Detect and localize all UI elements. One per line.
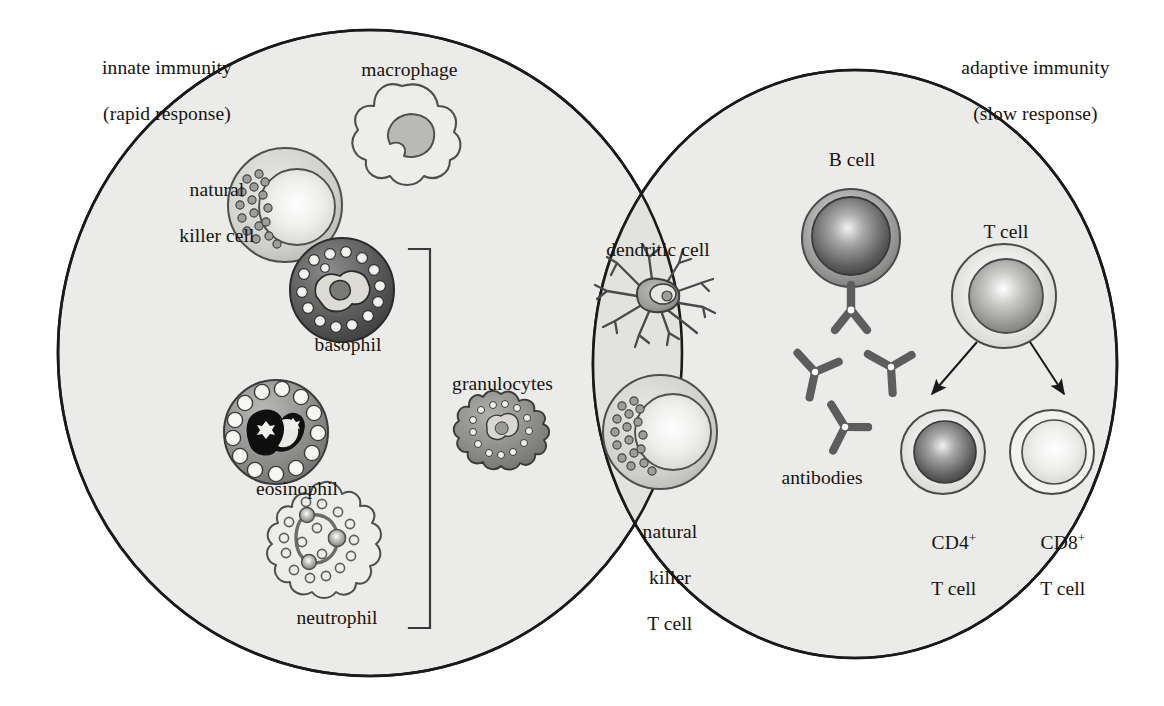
adaptive-immunity-label: adaptive immunity (slow response) [918, 33, 1133, 148]
antibodies-label: antibodies [757, 466, 887, 489]
cd8-superscript: + [1078, 530, 1086, 545]
nk-cell-line2: killer cell [179, 225, 254, 246]
eosinophil-label: eosinophil [232, 477, 362, 500]
t-cell-label: T cell [962, 220, 1050, 243]
macrophage-label: macrophage [337, 58, 482, 81]
innate-immunity-line2: (rapid response) [103, 103, 231, 124]
adaptive-immunity-line1: adaptive immunity [961, 57, 1109, 78]
dendritic-cell-label: dendritic cell [583, 238, 733, 261]
granulocytes-label: granulocytes [435, 372, 570, 395]
basophil-label: basophil [288, 333, 408, 356]
innate-immunity-line1: innate immunity [102, 57, 232, 78]
t-cell-icon [952, 244, 1056, 348]
figure-canvas: innate immunity (rapid response) adaptiv… [0, 0, 1164, 706]
cd8-main: CD8 [1041, 532, 1078, 553]
cd8-line2: T cell [1040, 578, 1085, 599]
cd4-t-cell-label: CD4+ T cell [889, 508, 999, 623]
cd4-line2: T cell [931, 578, 976, 599]
nk-cell-line1: natural [190, 179, 245, 200]
natural-killer-t-cell-icon [603, 375, 717, 489]
natural-killer-t-cell-label: natural killer T cell [605, 497, 715, 658]
cd4-main: CD4 [932, 532, 969, 553]
cd4-t-cell-icon [901, 410, 985, 494]
nkt-line3: T cell [647, 613, 692, 634]
cd8-t-cell-icon [1010, 410, 1094, 494]
cd4-superscript: + [969, 530, 977, 545]
basophil-icon [290, 238, 394, 342]
adaptive-immunity-line2: (slow response) [973, 103, 1097, 124]
eosinophil-icon [224, 380, 328, 484]
cd8-t-cell-label: CD8+ T cell [998, 508, 1108, 623]
nkt-line1: natural [643, 521, 698, 542]
b-cell-label: B cell [806, 148, 898, 171]
natural-killer-cell-label: natural killer cell [137, 155, 277, 270]
innate-immunity-label: innate immunity (rapid response) [57, 33, 257, 148]
nkt-line2: killer [649, 567, 691, 588]
neutrophil-label: neutrophil [272, 606, 402, 629]
